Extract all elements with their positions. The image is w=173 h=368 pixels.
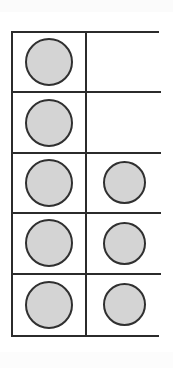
- grid-cell-r2c1[interactable]: [13, 93, 87, 153]
- grid-cell-r5c1[interactable]: [13, 275, 87, 335]
- grid-cell-r3c1[interactable]: [13, 154, 87, 214]
- gray-disc-icon: [25, 99, 73, 147]
- grid-cell-r1c2[interactable]: [87, 33, 161, 93]
- scan-bottom-band: [0, 352, 173, 368]
- grid-cell-r2c2[interactable]: [87, 93, 161, 153]
- gray-disc-icon: [25, 281, 73, 329]
- gray-disc-icon: [25, 159, 73, 207]
- grid-cell-r4c1[interactable]: [13, 214, 87, 274]
- gray-disc-icon: [25, 38, 73, 86]
- grid-cell-r1c1[interactable]: [13, 33, 87, 93]
- counter-grid: [11, 31, 159, 337]
- grid-cell-r4c2[interactable]: [87, 214, 161, 274]
- gray-disc-icon: [103, 222, 146, 265]
- scan-top-band: [0, 0, 173, 12]
- gray-disc-icon: [103, 161, 146, 204]
- grid-cell-r5c2[interactable]: [87, 275, 161, 335]
- gray-disc-icon: [103, 283, 146, 326]
- grid-cell-r3c2[interactable]: [87, 154, 161, 214]
- gray-disc-icon: [25, 219, 73, 267]
